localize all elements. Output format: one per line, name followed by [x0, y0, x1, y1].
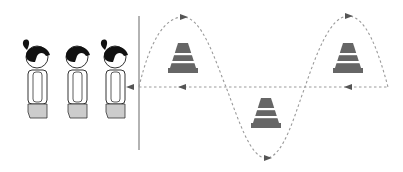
traffic-cone-icon	[333, 43, 363, 73]
arrow-right-icon	[264, 155, 272, 161]
arrow-left-icon	[344, 84, 352, 90]
child-figure-icon	[66, 46, 90, 118]
child-figure-icon	[101, 40, 128, 118]
arrow-left-icon	[178, 84, 186, 90]
traffic-cone-icon	[251, 98, 281, 128]
arrow-left-icon	[126, 84, 134, 90]
return-path	[126, 84, 388, 90]
arrow-right-icon	[345, 13, 353, 19]
traffic-cone-icon	[168, 43, 198, 73]
arrow-right-icon	[180, 14, 188, 20]
diagram-canvas	[0, 0, 403, 172]
slalom-diagram: Slalom relay around cones	[0, 0, 403, 172]
child-figure-icon	[23, 40, 50, 118]
